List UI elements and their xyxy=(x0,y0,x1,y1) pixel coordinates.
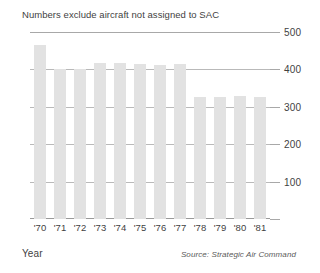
x-tick-label: '74 xyxy=(114,222,127,233)
y-tick-mark-400 xyxy=(270,69,280,70)
x-tick-label: '78 xyxy=(194,222,207,233)
bar xyxy=(154,65,166,219)
bar xyxy=(174,64,186,219)
bar xyxy=(194,97,206,219)
y-tick-mark-200 xyxy=(270,144,280,145)
bar xyxy=(254,97,266,219)
y-tick-mark-100 xyxy=(270,182,280,183)
y-tick-label-300: 300 xyxy=(284,101,301,112)
y-tick-label-500: 500 xyxy=(284,27,301,38)
x-tick-label: '75 xyxy=(134,222,147,233)
y-tick-label-200: 200 xyxy=(284,139,301,150)
y-tick-label-100: 100 xyxy=(284,176,301,187)
y-tick-label-400: 400 xyxy=(284,64,301,75)
bar xyxy=(114,63,126,219)
y-tick-mark-300 xyxy=(270,107,280,108)
x-tick-label: '73 xyxy=(94,222,107,233)
chart-note: Numbers exclude aircraft not assigned to… xyxy=(22,9,219,21)
bar xyxy=(234,96,246,219)
x-tick-label: '80 xyxy=(234,222,247,233)
source-note: Source: Strategic Air Command xyxy=(181,250,296,259)
x-tick-label: '76 xyxy=(154,222,167,233)
y-tick-mark-500 xyxy=(270,32,280,33)
x-tick-label: '77 xyxy=(174,222,187,233)
bar xyxy=(134,64,146,219)
x-tick-label: '70 xyxy=(34,222,47,233)
x-tick-label: '81 xyxy=(254,222,267,233)
bar xyxy=(74,69,86,219)
x-tick-label: '79 xyxy=(214,222,227,233)
y-tick-mark-0 xyxy=(270,219,280,220)
x-tick-label: '71 xyxy=(54,222,67,233)
bar xyxy=(214,97,226,219)
bar-chart-figure: Numbers exclude aircraft not assigned to… xyxy=(0,0,320,273)
bar xyxy=(34,45,46,219)
bar xyxy=(54,69,66,219)
x-axis-tick-labels: '70'71'72'73'74'75'76'77'78'79'80'81 xyxy=(30,222,270,238)
x-axis-title: Year xyxy=(22,248,43,259)
x-tick-label: '72 xyxy=(74,222,87,233)
bar-series xyxy=(30,32,270,219)
bar xyxy=(94,63,106,219)
